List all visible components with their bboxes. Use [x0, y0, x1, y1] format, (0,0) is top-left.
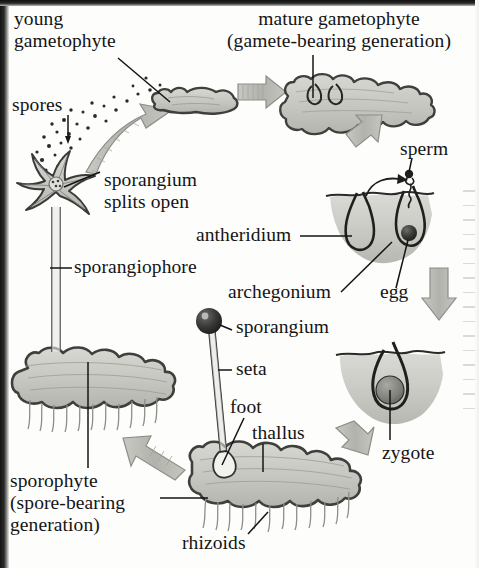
leader-sperm [409, 158, 412, 172]
label-sporophyte: sporophyte (spore-bearing generation) [10, 470, 125, 535]
scan-edge-left [0, 0, 9, 568]
label-spores: spores [12, 94, 62, 116]
sporangium-ball [196, 308, 222, 334]
egg-cell [401, 225, 417, 241]
arrow-fertilization-to-zygote [422, 268, 456, 320]
leader-young-gametophyte [118, 58, 170, 102]
scan-edge-top [0, 0, 479, 6]
young-gametophyte-thallus [152, 88, 237, 114]
label-antheridium: antheridium [196, 224, 291, 246]
label-seta: seta [236, 358, 267, 380]
arrow-spores-to-young [86, 104, 172, 174]
label-egg: egg [380, 281, 408, 303]
arrow-sporophyte-to-sporangium [123, 436, 185, 480]
label-sperm: sperm [400, 138, 448, 160]
sporophyte-on-thallus [189, 308, 361, 532]
label-sporangium-splits-open: sporangium splits open [104, 169, 197, 213]
label-sporangium: sporangium [236, 316, 329, 338]
label-young-gametophyte: young gametophyte [14, 8, 116, 52]
leader-sporangium [220, 325, 232, 330]
life-cycle-diagram: young gametophyte mature gametophyte (ga… [0, 0, 479, 568]
sporangiophore-stalk [52, 207, 60, 352]
label-rhizoids: rhizoids [182, 532, 246, 554]
arrow-young-to-mature [238, 76, 286, 108]
label-mature-gametophyte: mature gametophyte (gamete-bearing gener… [205, 8, 473, 52]
label-thallus: thallus [252, 422, 305, 444]
antheridium-archegonium-soil [326, 170, 434, 263]
sporangium-split-star [17, 151, 95, 214]
arrow-zygote-to-sporophyte [336, 421, 374, 455]
label-archegonium: archegonium [228, 281, 331, 303]
label-sporangiophore: sporangiophore [74, 256, 197, 278]
label-zygote: zygote [382, 442, 435, 464]
sporophyte-thallus-left [12, 347, 175, 432]
scan-edge-right [475, 0, 479, 568]
leader-rhizoids [248, 512, 268, 534]
label-foot: foot [230, 396, 262, 418]
